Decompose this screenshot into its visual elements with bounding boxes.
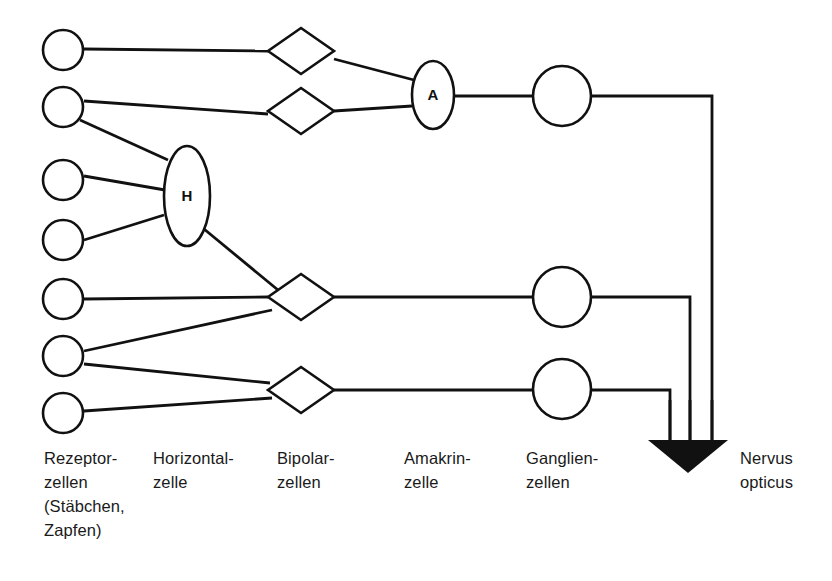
- column-label-rezeptorzellen: Rezeptor- zellen (Stäbchen, Zapfen): [44, 446, 125, 542]
- receptor-cell-receptor-7: [43, 393, 83, 433]
- connection-r6-b3: [84, 310, 272, 351]
- connection-b2-a: [334, 106, 412, 111]
- connection-r5-b3: [84, 297, 268, 299]
- bipolar-cell-bipolar-2: [268, 88, 334, 134]
- connection-b1-a: [334, 59, 414, 80]
- ganglion-cell-ganglion-1: [533, 66, 591, 126]
- connection-g3-nerve: [591, 390, 670, 440]
- connection-r6-b4: [84, 364, 270, 383]
- receptor-cell-receptor-5: [43, 279, 83, 319]
- receptor-cell-receptor-3: [43, 160, 83, 200]
- connection-g2-nerve: [591, 297, 690, 440]
- optic-nerve-triangle-icon: [648, 440, 728, 473]
- connection-r3-h: [84, 176, 165, 190]
- connection-r2-h: [80, 120, 168, 160]
- amakrine-cell-label: A: [428, 86, 439, 103]
- diagram-canvas: H A Rezeptor- zellen (Stäbchen, Zapfen)H…: [0, 0, 832, 581]
- receptor-cell-receptor-6: [43, 336, 83, 376]
- connection-r4-h: [84, 215, 164, 240]
- bipolar-cell-bipolar-4: [268, 367, 334, 413]
- bipolar-cell-bipolar-1: [268, 28, 334, 74]
- bipolar-cell-bipolar-3: [268, 274, 334, 320]
- receptor-cell-receptor-1: [43, 30, 83, 70]
- connection-r7-b4: [84, 398, 272, 411]
- column-label-amakrinzelle: Amakrin- zelle: [404, 446, 471, 494]
- connection-r2-b2: [84, 101, 268, 114]
- nodes-layer: [43, 28, 591, 433]
- receptor-cell-receptor-2: [43, 87, 83, 127]
- connections-layer: [80, 49, 712, 440]
- receptor-cell-receptor-4: [43, 220, 83, 260]
- ganglion-cell-ganglion-3: [533, 359, 591, 419]
- connection-g1-nerve: [591, 96, 712, 440]
- connection-r1-b1: [84, 49, 268, 51]
- optic-nerve-layer: [648, 400, 728, 473]
- horizontal-cell-label: H: [182, 187, 193, 204]
- connection-h-b3: [204, 229, 278, 290]
- column-label-nervus-opticus: Nervus opticus: [740, 446, 793, 494]
- ganglion-cell-ganglion-2: [533, 267, 591, 327]
- column-label-horizontalzelle: Horizontal- zelle: [153, 446, 234, 494]
- column-label-bipolarzellen: Bipolar- zellen: [277, 446, 335, 494]
- column-label-ganglienzellen: Ganglien- zellen: [526, 446, 598, 494]
